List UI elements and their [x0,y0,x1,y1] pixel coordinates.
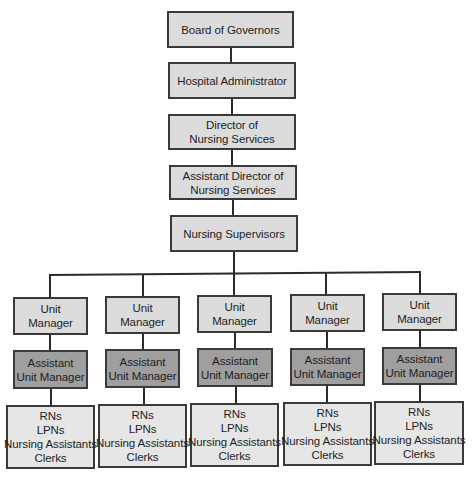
node-label: Hospital Administrator [177,74,287,88]
node-staff-3: RNs LPNs Nursing Assistants Clerks [190,403,279,467]
node-label: Unit Manager [109,369,177,383]
connector-assistant-staff-4 [326,386,328,402]
node-director-nursing-services: Director of Nursing Services [168,114,296,150]
node-label: Director of [206,118,258,132]
node-label: Unit [40,302,60,316]
node-label: Nursing Supervisors [183,227,285,241]
node-label: RNs [408,405,430,419]
node-label: Unit Manager [201,368,269,382]
node-label: Nursing Services [189,132,274,146]
connector-bus-unit-2 [142,275,144,296]
connector-assistant-staff-5 [419,385,421,401]
node-label: Unit [317,299,337,313]
node-label: Unit [409,298,429,312]
node-label: RNs [131,408,153,422]
node-label: Clerks [127,450,159,464]
node-label: Assistant [120,355,166,369]
connector-assistant-staff-1 [50,389,52,405]
connector-manager-assistant-3 [234,333,236,348]
connector-manager-assistant-5 [419,331,421,347]
node-label: Clerks [219,449,251,463]
node-label: Clerks [312,448,344,462]
node-label: Manager [397,312,442,326]
node-label: Manager [305,313,350,327]
node-label: Assistant [28,356,74,370]
node-label: RNs [316,406,338,420]
node-label: Manager [120,315,165,329]
node-staff-4: RNs LPNs Nursing Assistants Clerks [283,402,372,466]
node-label: Nursing Assistants [373,433,466,447]
node-label: Clerks [403,447,435,461]
node-label: Nursing Assistants [4,437,97,451]
node-label: Clerks [35,451,67,465]
connector-manager-assistant-1 [49,335,51,350]
node-label: LPNs [221,421,249,435]
node-label: LPNs [129,422,157,436]
node-label: Nursing Services [190,183,275,197]
node-label: LPNs [37,423,65,437]
node-label: RNs [223,407,245,421]
node-label: Board of Governors [181,23,280,37]
node-label: Unit Manager [386,366,454,380]
connector-board-admin [230,48,232,62]
node-unit-manager-5: Unit Manager [382,293,457,331]
node-label: Assistant [212,354,258,368]
node-hospital-administrator: Hospital Administrator [168,62,296,99]
node-board-of-governors: Board of Governors [167,11,294,48]
connector-asstdirector-supervisors [232,200,234,215]
node-label: Assistant [397,352,443,366]
node-label: Assistant Director of [183,169,284,183]
connector-manager-assistant-4 [326,332,328,348]
node-assistant-unit-manager-3: Assistant Unit Manager [197,348,273,387]
connector-bus-unit-4 [325,273,327,294]
node-nursing-supervisors: Nursing Supervisors [170,215,298,252]
node-assistant-unit-manager-5: Assistant Unit Manager [382,347,457,385]
connector-director-asstdirector [231,150,233,165]
connector-manager-assistant-2 [142,334,144,349]
node-label: Nursing Assistants [281,434,374,448]
node-label: Manager [212,314,257,328]
node-label: LPNs [405,419,433,433]
node-assistant-unit-manager-1: Assistant Unit Manager [13,350,88,389]
node-staff-2: RNs LPNs Nursing Assistants Clerks [98,404,187,468]
node-assistant-director-nursing-services: Assistant Director of Nursing Services [169,165,297,200]
connector-assistant-staff-3 [235,387,237,403]
node-unit-manager-4: Unit Manager [290,294,365,332]
connector-bus-unit-3 [233,274,235,295]
node-label: Manager [28,316,73,330]
node-label: Unit [224,300,244,314]
node-label: Nursing Assistants [96,436,189,450]
node-label: Assistant [305,353,351,367]
node-label: Unit Manager [17,370,85,384]
node-assistant-unit-manager-2: Assistant Unit Manager [105,349,180,388]
node-unit-manager-3: Unit Manager [197,295,272,333]
connector-bus-unit-5 [419,272,421,293]
node-label: LPNs [314,420,342,434]
node-staff-1: RNs LPNs Nursing Assistants Clerks [6,405,95,469]
connector-assistant-staff-2 [143,388,145,404]
node-staff-5: RNs LPNs Nursing Assistants Clerks [374,401,464,465]
node-label: Unit Manager [294,367,362,381]
node-unit-manager-1: Unit Manager [13,297,88,335]
node-label: Unit [132,301,152,315]
node-label: RNs [39,409,61,423]
node-label: Nursing Assistants [188,435,281,449]
connector-bus-unit-1 [49,276,51,297]
node-unit-manager-2: Unit Manager [105,296,180,334]
connector-admin-director [231,99,233,114]
node-assistant-unit-manager-4: Assistant Unit Manager [290,348,365,386]
